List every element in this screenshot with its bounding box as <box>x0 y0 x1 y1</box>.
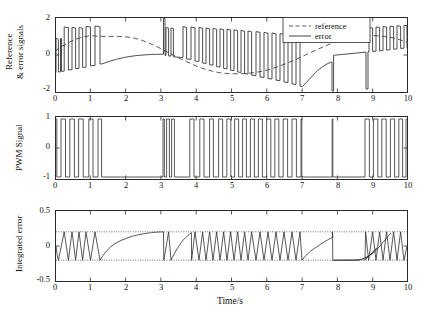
panel3-xtick-2: 2 <box>119 282 133 292</box>
panel2-ytick-0: 0 <box>32 141 50 151</box>
panel2-xtick-0: 0 <box>48 180 62 190</box>
panel2-ytick-1: 1 <box>32 111 50 121</box>
panel3-xtick-4: 4 <box>189 282 203 292</box>
panel1-ytick-m2: -2 <box>26 83 50 93</box>
legend-label-reference: reference <box>315 21 347 31</box>
panel1-ytick-0: 0 <box>30 48 50 58</box>
panel1-xtick-0: 0 <box>48 93 62 103</box>
panel3-ylabel-text: Integrated error <box>14 216 24 272</box>
legend-label-error: error <box>315 31 332 41</box>
panel2-xtick-6: 6 <box>260 180 274 190</box>
panel2-xtick-9: 9 <box>366 180 380 190</box>
panel3-ytick-05: 0.5 <box>24 205 50 215</box>
panel1-xtick-6: 6 <box>260 93 274 103</box>
panel2-xtick-3: 3 <box>154 180 168 190</box>
panel1-xtick-3: 3 <box>154 93 168 103</box>
panel1-xtick-8: 8 <box>331 93 345 103</box>
panel3-xtick-1: 1 <box>83 282 97 292</box>
panel-pwm <box>55 116 408 180</box>
panel2-xtick-1: 1 <box>83 180 97 190</box>
panel2-xtick-7: 7 <box>295 180 309 190</box>
figure-root: Reference & error signals 2 0 -2 <box>0 0 425 315</box>
panel3-xtick-0: 0 <box>48 282 62 292</box>
panel2-xtick-10: 10 <box>399 180 417 190</box>
panel3-xtick-6: 6 <box>260 282 274 292</box>
panel3-xlabel: Time/s <box>180 296 280 306</box>
panel3-integrated-curve <box>56 232 407 260</box>
panel1-xtick-7: 7 <box>295 93 309 103</box>
panel2-xtick-4: 4 <box>189 180 203 190</box>
panel2-ylabel: PWM Signal <box>14 113 28 183</box>
panel1-ylabel-line2: & error signals <box>15 25 25 79</box>
panel1-xtick-2: 2 <box>119 93 133 103</box>
panel1-xtick-10: 10 <box>399 93 417 103</box>
panel2-frame <box>56 117 408 180</box>
panel1-xtick-1: 1 <box>83 93 97 103</box>
panel1-legend: reference error <box>283 18 370 43</box>
panel1-ylabel-line1: Reference <box>4 34 14 70</box>
panel2-xtick-8: 8 <box>331 180 345 190</box>
panel-integrated-error <box>55 210 408 282</box>
panel1-xtick-4: 4 <box>189 93 203 103</box>
panel3-frame <box>56 211 408 282</box>
panel2-ylabel-text: PWM Signal <box>14 125 24 172</box>
panel2-xticks <box>56 117 408 180</box>
panel3-xtick-9: 9 <box>366 282 380 292</box>
panel3-xtick-10: 10 <box>399 282 417 292</box>
panel3-xticks <box>56 211 408 282</box>
panel2-ytick-m1: -1 <box>28 171 50 181</box>
panel1-ytick-2: 2 <box>30 12 50 22</box>
panel3-ytick-m05: -0.5 <box>20 274 50 284</box>
panel2-plot <box>55 116 408 180</box>
panel3-xtick-5: 5 <box>225 282 239 292</box>
panel-reference-error: reference error <box>55 17 408 93</box>
panel3-ytick-0: 0 <box>30 240 50 250</box>
panel1-ylabel: Reference & error signals <box>4 12 26 92</box>
panel3-plot <box>55 210 408 282</box>
panel2-pwm-curve <box>56 119 407 177</box>
panel1-xtick-5: 5 <box>225 93 239 103</box>
panel2-xtick-2: 2 <box>119 180 133 190</box>
panel2-xtick-5: 5 <box>225 180 239 190</box>
panel3-xtick-3: 3 <box>154 282 168 292</box>
panel3-ylabel: Integrated error <box>14 206 28 282</box>
panel1-plot: reference error <box>55 17 408 93</box>
panel3-xtick-7: 7 <box>295 282 309 292</box>
panel3-xtick-8: 8 <box>331 282 345 292</box>
panel1-xtick-9: 9 <box>366 93 380 103</box>
